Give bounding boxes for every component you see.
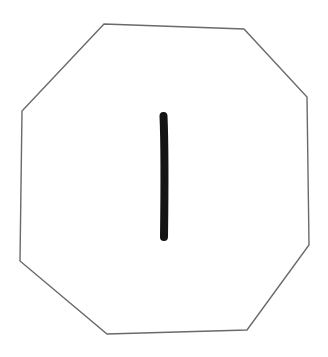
figure-canvas xyxy=(0,0,328,357)
handwritten-stroke-glyph xyxy=(164,116,165,237)
